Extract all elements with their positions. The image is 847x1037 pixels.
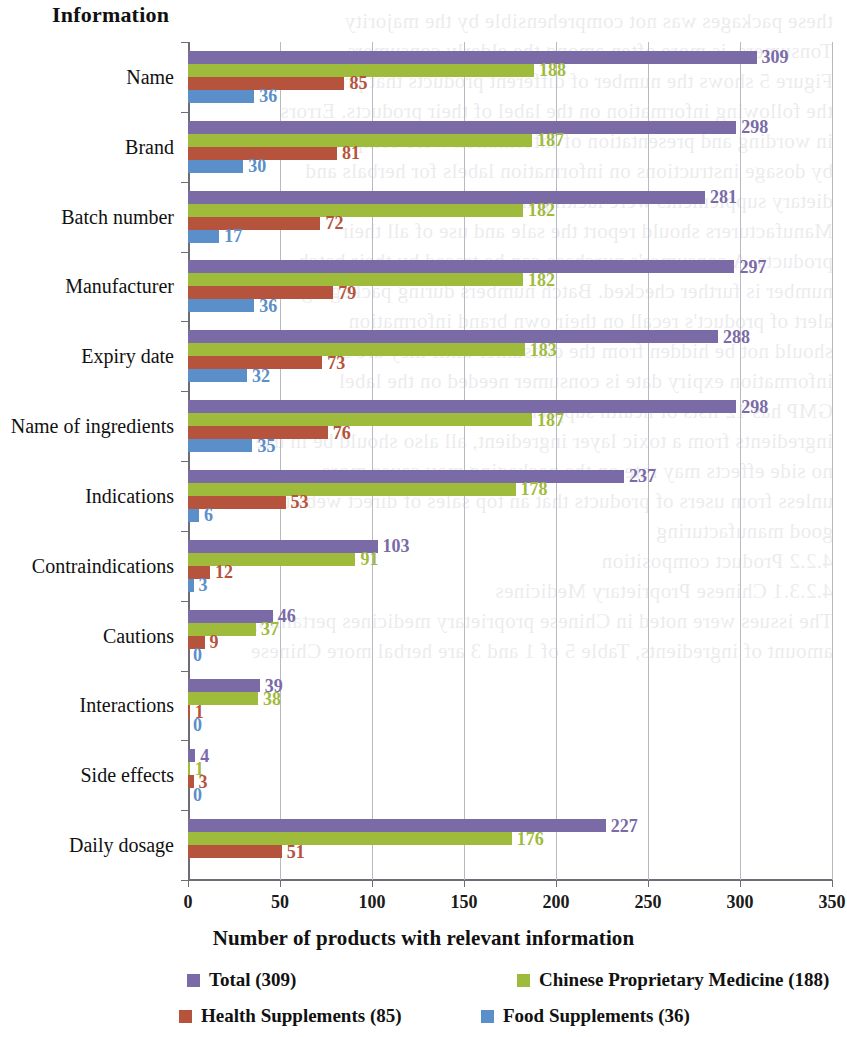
bar <box>188 90 254 103</box>
bar-value-label: 0 <box>188 784 202 805</box>
legend-label-chinese-proprietary-medicine: Chinese Proprietary Medicine (188) <box>539 969 829 991</box>
bar-row: 46 <box>188 610 832 623</box>
bar-row: 12 <box>188 566 832 579</box>
x-tick-300 <box>740 880 741 887</box>
x-axis-title: Number of products with relevant informa… <box>0 926 847 951</box>
bar-row: 309 <box>188 51 832 64</box>
x-tick-0 <box>188 880 189 887</box>
bar-row: 36 <box>188 90 832 103</box>
bar-row: 3 <box>188 775 832 788</box>
bar-row: 0 <box>188 718 832 731</box>
bar-value-label: 0 <box>188 645 202 666</box>
bar-row: 51 <box>188 845 832 858</box>
bar-row: 237 <box>188 470 832 483</box>
x-tick-label-50: 50 <box>271 892 289 913</box>
category-label: Daily dosage <box>69 834 174 857</box>
bar-group: Cautions463790 <box>188 601 832 671</box>
bar-row: 79 <box>188 286 832 299</box>
bar-row: 1 <box>188 705 832 718</box>
bar-row: 288 <box>188 330 832 343</box>
y-tick-11 <box>181 810 188 811</box>
bar-row: 37 <box>188 623 832 636</box>
bar-value-label: 3 <box>194 575 208 596</box>
bar-row: 17 <box>188 230 832 243</box>
y-tick-end <box>181 880 188 881</box>
bar-row: 227 <box>188 819 832 832</box>
bar-group: Name3091888536 <box>188 42 832 112</box>
bar-row: 73 <box>188 356 832 369</box>
bar-value-label: 35 <box>252 435 275 456</box>
bar-row: 36 <box>188 299 832 312</box>
chart-legend: Total (309) Chinese Proprietary Medicine… <box>185 965 805 1037</box>
bar-group: Expiry date2881837332 <box>188 321 832 391</box>
legend-item-health-supplements: Health Supplements (85) <box>179 1005 402 1027</box>
bar <box>188 204 523 217</box>
bar <box>188 330 718 343</box>
x-tick-150 <box>464 880 465 887</box>
bar-group: Batch number2811827217 <box>188 182 832 252</box>
bar-row: 182 <box>188 273 832 286</box>
bar-row: 39 <box>188 679 832 692</box>
bar <box>188 134 532 147</box>
legend-swatch-health-supplements <box>179 1010 192 1023</box>
legend-swatch-total <box>187 974 200 987</box>
bar-row: 281 <box>188 191 832 204</box>
y-tick-3 <box>181 252 188 253</box>
bar <box>188 51 757 64</box>
category-label: Name <box>126 65 174 88</box>
y-tick-1 <box>181 112 188 113</box>
y-tick-10 <box>181 740 188 741</box>
category-label: Cautions <box>103 624 174 647</box>
bar-group: Brand2981878130 <box>188 112 832 182</box>
bar-chart-figure: Information 050100150200250300350 Name30… <box>0 0 847 1037</box>
x-tick-label-350: 350 <box>819 892 846 913</box>
y-tick-9 <box>181 671 188 672</box>
legend-label-food-supplements: Food Supplements (36) <box>503 1005 690 1027</box>
bar <box>188 679 260 692</box>
y-tick-5 <box>181 391 188 392</box>
bar-group: Contraindications10391123 <box>188 531 832 601</box>
y-tick-4 <box>181 321 188 322</box>
bar-value-label: 30 <box>243 156 266 177</box>
legend-swatch-food-supplements <box>481 1010 494 1023</box>
bar-row: 182 <box>188 204 832 217</box>
category-label: Batch number <box>61 205 174 228</box>
bar-value-label: 0 <box>188 714 202 735</box>
bar <box>188 483 516 496</box>
bar-row: 85 <box>188 77 832 90</box>
bar <box>188 509 199 522</box>
legend-item-chinese-proprietary-medicine: Chinese Proprietary Medicine (188) <box>517 969 829 991</box>
bar-group: Manufacturer2971827936 <box>188 252 832 322</box>
x-tick-250 <box>648 880 649 887</box>
bar <box>188 260 734 273</box>
category-label: Expiry date <box>81 345 174 368</box>
category-label: Manufacturer <box>65 275 174 298</box>
bar-row: 3 <box>188 579 832 592</box>
bar <box>188 217 320 230</box>
bar <box>188 470 624 483</box>
legend-row-2: Health Supplements (85) Food Supplements… <box>185 1001 805 1037</box>
x-tick-200 <box>556 880 557 887</box>
y-tick-2 <box>181 182 188 183</box>
legend-label-health-supplements: Health Supplements (85) <box>201 1005 402 1027</box>
x-tick-label-0: 0 <box>184 892 193 913</box>
bar-row: 187 <box>188 134 832 147</box>
y-tick-6 <box>181 461 188 462</box>
bar-value-label: 32 <box>247 365 270 386</box>
category-label: Name of ingredients <box>11 415 174 438</box>
category-label: Contraindications <box>32 554 174 577</box>
x-tick-label-100: 100 <box>359 892 386 913</box>
bar-row: 35 <box>188 439 832 452</box>
bar <box>188 121 736 134</box>
bar-row: 32 <box>188 369 832 382</box>
bar-row: 1 <box>188 762 832 775</box>
bar-row: 30 <box>188 160 832 173</box>
bar <box>188 413 532 426</box>
bar-row <box>188 858 832 871</box>
bar <box>188 400 736 413</box>
bar-row: 53 <box>188 496 832 509</box>
legend-swatch-chinese-proprietary-medicine <box>517 974 530 987</box>
bar-group: Daily dosage22717651 <box>188 810 832 880</box>
bar-row: 4 <box>188 749 832 762</box>
bar-row: 81 <box>188 147 832 160</box>
